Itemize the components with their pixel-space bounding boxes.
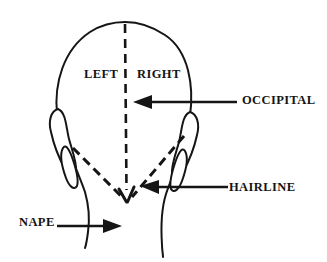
label-occipital: OCCIPITAL	[242, 94, 316, 107]
right-earlobe	[170, 149, 187, 191]
label-hairline: HAIRLINE	[229, 181, 295, 194]
head-regions-diagram: LEFT RIGHT OCCIPITAL HAIRLINE NAPE	[0, 0, 327, 262]
occipital-arrowhead	[133, 95, 152, 109]
hairline-left-dashed-line	[73, 148, 122, 197]
nape-arrowhead	[103, 219, 122, 233]
occipital-arrow	[133, 95, 237, 109]
hairline-arrow	[140, 180, 228, 194]
center-part-dashed-line	[125, 24, 127, 190]
left-earlobe	[61, 146, 78, 188]
label-left-region: LEFT	[84, 68, 118, 81]
label-nape: NAPE	[19, 216, 55, 229]
label-right-region: RIGHT	[137, 68, 181, 81]
